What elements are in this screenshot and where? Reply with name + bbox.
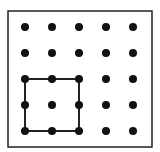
grid-dot bbox=[21, 101, 29, 109]
grid-dot bbox=[48, 75, 56, 83]
grid-dot bbox=[75, 101, 83, 109]
grid-dot bbox=[129, 49, 137, 57]
grid-dot bbox=[102, 23, 110, 31]
grid-dot bbox=[102, 101, 110, 109]
grid-dot bbox=[48, 23, 56, 31]
grid-dot bbox=[129, 127, 137, 135]
geoboard-diagram bbox=[0, 0, 160, 152]
grid-dot bbox=[48, 101, 56, 109]
grid-dot bbox=[21, 23, 29, 31]
grid-dot bbox=[129, 23, 137, 31]
grid-dot bbox=[102, 49, 110, 57]
grid-dot bbox=[21, 49, 29, 57]
grid-dot bbox=[48, 49, 56, 57]
grid-dot bbox=[75, 75, 83, 83]
grid-dot bbox=[102, 127, 110, 135]
grid-dot bbox=[102, 75, 110, 83]
grid-dot bbox=[21, 127, 29, 135]
grid-dot bbox=[75, 23, 83, 31]
grid-dot bbox=[75, 127, 83, 135]
grid-dot bbox=[129, 101, 137, 109]
grid-dot bbox=[21, 75, 29, 83]
grid-dot bbox=[75, 49, 83, 57]
grid-dot bbox=[48, 127, 56, 135]
grid-dot bbox=[129, 75, 137, 83]
